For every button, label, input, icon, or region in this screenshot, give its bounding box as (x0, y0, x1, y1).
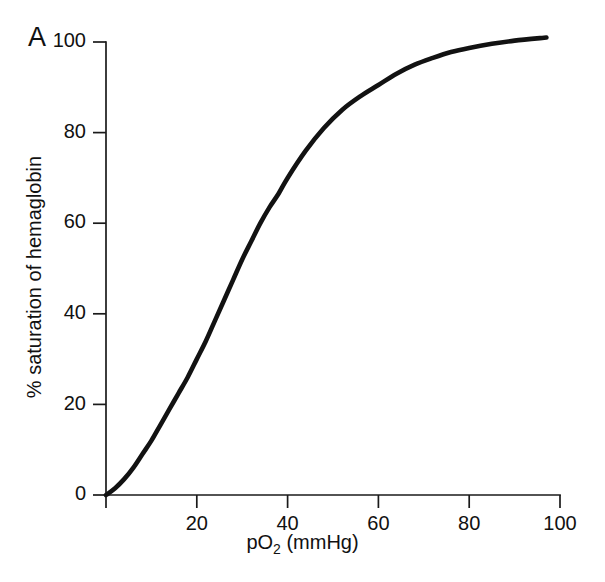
x-axis-title-subscript: 2 (273, 541, 281, 557)
x-axis-ticks (106, 495, 560, 508)
oxygen-dissociation-curve (106, 37, 546, 495)
y-tick-labels: 100 80 60 40 20 0 (53, 29, 86, 504)
y-tick-label: 20 (64, 392, 86, 414)
x-axis-title: pO2 (mmHg) (0, 531, 605, 554)
y-tick-label: 80 (64, 120, 86, 142)
x-axis-title-units: (mmHg) (281, 531, 359, 553)
y-tick-label: 40 (64, 301, 86, 323)
y-tick-label: 0 (75, 482, 86, 504)
y-axis-ticks (93, 42, 106, 495)
dissociation-curve-plot: 100 80 60 40 20 0 20 40 60 80 100 (0, 0, 605, 582)
y-tick-label: 100 (53, 29, 86, 51)
x-axis-title-main: pO (246, 531, 273, 553)
figure-root: A 100 80 60 40 20 (0, 0, 605, 582)
y-tick-label: 60 (64, 210, 86, 232)
